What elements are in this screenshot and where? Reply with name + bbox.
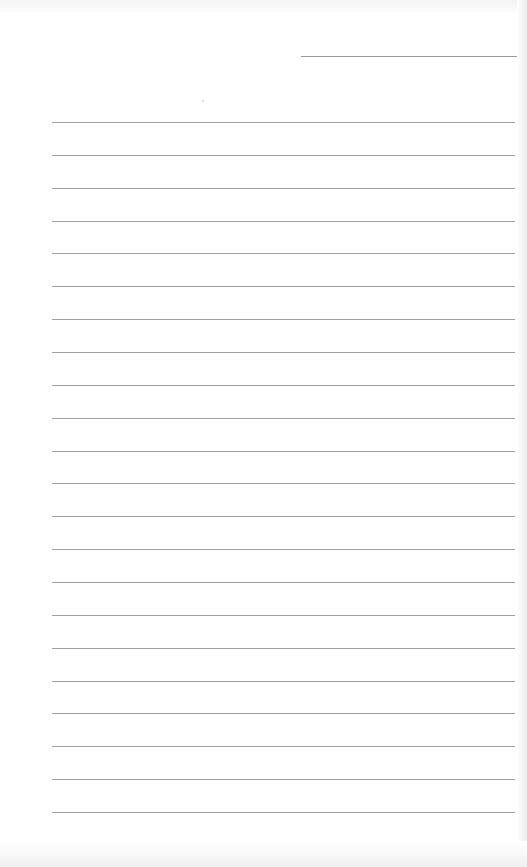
- ruled-line: [52, 319, 515, 320]
- ruled-line: [52, 253, 515, 254]
- ruled-line: [52, 122, 515, 123]
- ruled-line: [52, 549, 515, 550]
- ruled-line: [52, 418, 515, 419]
- ruled-line: [52, 648, 515, 649]
- ruled-line: [52, 483, 515, 484]
- scan-texture-top: [0, 0, 527, 14]
- ruled-line: [52, 812, 515, 813]
- scan-texture-bottom: [0, 841, 527, 867]
- ruled-line: [52, 779, 515, 780]
- ruled-line: [52, 681, 515, 682]
- lined-paper-page: [0, 0, 527, 867]
- ruled-line: [52, 713, 515, 714]
- ruled-line: [52, 286, 515, 287]
- ruled-line: [52, 221, 515, 222]
- paper-speck: [202, 100, 204, 102]
- ruled-line: [52, 188, 515, 189]
- ruled-line: [52, 615, 515, 616]
- ruled-line: [52, 385, 515, 386]
- ruled-line: [52, 582, 515, 583]
- ruled-line: [52, 352, 515, 353]
- ruled-line: [52, 746, 515, 747]
- ruled-line: [52, 155, 515, 156]
- ruled-line: [52, 451, 515, 452]
- header-name-line: [301, 56, 517, 57]
- ruled-line: [52, 516, 515, 517]
- page-edge-shadow: [517, 0, 527, 867]
